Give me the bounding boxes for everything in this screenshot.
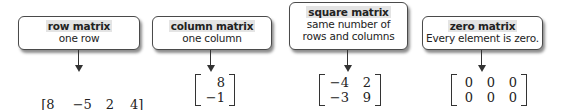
column-matrix-label-box: column matrix one column [152, 16, 272, 50]
matrix-cell: 0 [461, 90, 473, 105]
square-matrix-arrow-icon [347, 50, 348, 67]
row-matrix-label-box: row matrix one row [18, 16, 140, 50]
square-matrix-title: square matrix [306, 6, 390, 18]
zero-matrix-label-box: zero matrix Every element is zero. [422, 16, 543, 50]
matrix-cell: 0 [495, 75, 517, 90]
matrix-cell: −1 [205, 90, 225, 105]
column-matrix-title: column matrix [169, 20, 256, 32]
column-matrix-description: one column [153, 32, 271, 44]
row-matrix-description: one row [19, 32, 139, 44]
zero-matrix-description: Every element is zero. [423, 32, 542, 44]
row-matrix-arrow-icon [78, 50, 79, 67]
zero-matrix: 0 0 0 0 0 0 [451, 74, 527, 106]
square-matrix-description-line2: rows and columns [290, 30, 407, 42]
matrix-cell: −5 [73, 97, 92, 110]
column-matrix: 8 −1 [195, 74, 235, 106]
matrix-cell: 9 [349, 90, 371, 105]
matrix-cell: 8 [46, 97, 54, 110]
row-matrix: [8−524] [33, 82, 143, 110]
bracket-close [521, 74, 527, 106]
matrix-cell: 0 [473, 90, 495, 105]
zero-matrix-title: zero matrix [448, 20, 518, 32]
matrix-cell: 2 [106, 97, 114, 110]
column-matrix-arrow-icon [210, 50, 211, 67]
matrix-cell: 2 [349, 75, 371, 90]
matrix-cell: 8 [205, 75, 225, 90]
matrix-cell: 0 [495, 90, 517, 105]
matrix-cell: −3 [329, 90, 349, 105]
matrix-cell: 0 [473, 75, 495, 90]
row-matrix-title: row matrix [46, 20, 112, 32]
bracket-close [375, 74, 381, 106]
matrix-cell: 0 [461, 75, 473, 90]
matrix-cell: −4 [329, 75, 349, 90]
square-matrix: −4 2 −3 9 [319, 74, 381, 106]
bracket-close: ] [138, 97, 143, 110]
zero-matrix-arrow-icon [481, 50, 482, 67]
square-matrix-label-box: square matrix same number of rows and co… [289, 2, 408, 50]
bracket-close [229, 74, 235, 106]
square-matrix-description-line1: same number of [290, 18, 407, 30]
